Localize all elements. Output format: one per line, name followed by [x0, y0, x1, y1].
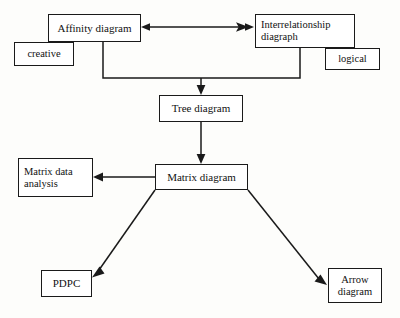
node-creative-label: creative [27, 48, 60, 60]
node-matrix-data-analysis[interactable]: Matrix data analysis [18, 158, 93, 197]
edge-matrix-arrowdiagram [248, 190, 327, 285]
node-affinity-diagram[interactable]: Affinity diagram [48, 14, 141, 42]
node-logical-label: logical [338, 53, 367, 65]
node-creative[interactable]: creative [14, 42, 74, 66]
node-tree-diagram-label: Tree diagram [172, 102, 231, 114]
edge-affinity-interrelationship [141, 23, 254, 31]
node-pdpc[interactable]: PDPC [41, 270, 92, 297]
node-pdpc-label: PDPC [53, 277, 81, 289]
node-logical[interactable]: logical [325, 48, 380, 70]
edge-bracket-to-tree [103, 42, 300, 95]
node-arrow-diagram[interactable]: Arrow diagram [328, 268, 382, 303]
node-affinity-diagram-label: Affinity diagram [57, 22, 131, 34]
node-interrelationship-diagraph-label: Interrelationship diagraph [261, 19, 330, 43]
node-matrix-diagram[interactable]: Matrix diagram [155, 164, 248, 190]
edge-matrix-matrixdata [93, 172, 155, 181]
diagram-canvas: Affinity diagram creative Interrelations… [0, 0, 400, 318]
node-tree-diagram[interactable]: Tree diagram [159, 95, 243, 122]
edge-matrix-pdpc [92, 190, 155, 278]
node-arrow-diagram-label: Arrow diagram [338, 274, 372, 298]
node-matrix-data-analysis-label: Matrix data analysis [24, 166, 73, 190]
node-matrix-diagram-label: Matrix diagram [167, 171, 236, 183]
edge-tree-matrix [197, 122, 206, 164]
node-interrelationship-diagraph[interactable]: Interrelationship diagraph [255, 14, 355, 48]
